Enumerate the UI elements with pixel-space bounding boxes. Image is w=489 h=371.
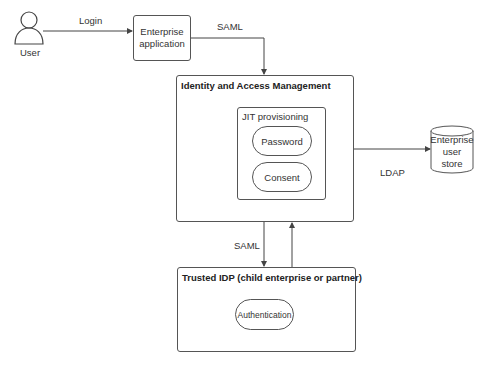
enterprise-application-node: Enterprise application [133, 15, 191, 61]
enterprise-application-line1: Enterprise [140, 26, 183, 38]
enterprise-application-line2: application [139, 38, 184, 50]
login-label: Login [79, 15, 102, 26]
user-store-text: Enterprise user store [431, 138, 473, 166]
authentication-label: Authentication [238, 310, 292, 320]
jit-title: JIT provisioning [242, 111, 308, 122]
saml-connector-top [191, 38, 264, 74]
authentication-node: Authentication [235, 299, 294, 330]
consent-label: Consent [264, 172, 299, 183]
saml-label-bottom: SAML [234, 240, 260, 251]
password-label: Password [261, 136, 303, 147]
user-icon [15, 12, 43, 44]
user-store-line1: Enterprise [430, 134, 473, 146]
trusted-idp-title: Trusted IDP (child enterprise or partner… [182, 272, 362, 283]
user-label: User [20, 47, 40, 58]
password-node: Password [252, 126, 312, 156]
user-store-line2: user store [431, 146, 473, 170]
saml-label-top: SAML [217, 21, 243, 32]
consent-node: Consent [252, 162, 312, 192]
ldap-label: LDAP [380, 167, 405, 178]
iam-title: Identity and Access Management [181, 80, 331, 91]
